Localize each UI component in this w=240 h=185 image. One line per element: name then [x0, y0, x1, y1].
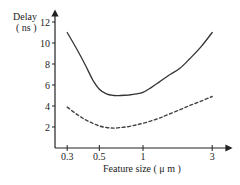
y-tick-label: 8 — [45, 59, 50, 70]
y-tick-label: 2 — [45, 122, 50, 133]
series-line-dashed — [67, 97, 212, 129]
delay-vs-feature-size-chart: 24681012 0.30.513 Delay ( ns ) Feature s… — [0, 0, 240, 185]
y-axis-unit: ( ns ) — [16, 22, 37, 34]
x-axis-title: Feature size ( μ m ) — [103, 163, 181, 175]
y-tick-label: 12 — [40, 17, 50, 28]
x-tick-label: 0.3 — [61, 151, 74, 162]
x-tick-label: 3 — [210, 151, 215, 162]
y-tick-label: 4 — [45, 101, 50, 112]
x-tick-label: 0.5 — [93, 151, 106, 162]
series-line-solid — [67, 33, 212, 96]
x-tick-label: 1 — [141, 151, 146, 162]
y-tick-label: 6 — [45, 80, 50, 91]
y-axis-title: Delay — [13, 11, 37, 22]
y-tick-label: 10 — [40, 38, 50, 49]
